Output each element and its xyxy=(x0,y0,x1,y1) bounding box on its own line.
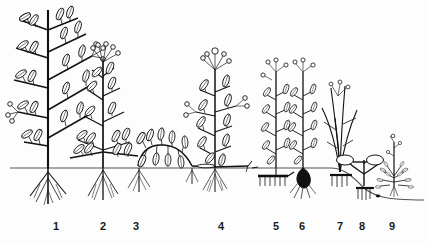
plant-label-2: 2 xyxy=(100,216,106,236)
botanical-life-forms-figure: 1 2 3 4 5 6 7 8 9 xyxy=(0,0,427,245)
plant-label-8: 8 xyxy=(359,216,365,236)
plant-label-1: 1 xyxy=(53,216,59,236)
plant-label-9: 9 xyxy=(389,216,395,236)
plant-label-3: 3 xyxy=(133,216,139,236)
ground-marker xyxy=(376,195,380,198)
plant-life-forms-illustration xyxy=(0,0,427,245)
plant-label-5: 5 xyxy=(273,216,279,236)
plant-number-labels: 1 2 3 4 5 6 7 8 9 xyxy=(0,216,427,236)
plant-label-7: 7 xyxy=(337,216,343,236)
plant-label-6: 6 xyxy=(299,216,305,236)
plant-label-4: 4 xyxy=(218,216,224,236)
